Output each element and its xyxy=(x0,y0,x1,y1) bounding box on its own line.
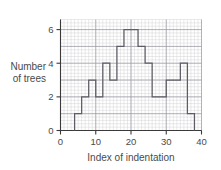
chart-canvas: 010203040 0246 Index of indentation Numb… xyxy=(0,0,221,170)
x-tick-label: 0 xyxy=(58,136,63,147)
x-axis-title: Index of indentation xyxy=(87,152,174,163)
y-tick-label: 6 xyxy=(48,24,53,35)
y-axis-tick-labels: 0246 xyxy=(48,24,53,136)
x-tick-label: 20 xyxy=(126,136,137,147)
x-tick-label: 40 xyxy=(196,136,207,147)
y-axis-title-line2: of trees xyxy=(13,73,46,84)
x-tick-label: 30 xyxy=(161,136,172,147)
y-tick-label: 2 xyxy=(48,91,53,102)
x-axis-tick-labels: 010203040 xyxy=(58,136,207,147)
y-axis-title-line1: Number xyxy=(10,61,46,72)
histogram-chart: 010203040 0246 Index of indentation Numb… xyxy=(0,0,221,170)
x-tick-label: 10 xyxy=(90,136,101,147)
y-tick-label: 4 xyxy=(48,58,53,69)
y-tick-label: 0 xyxy=(48,125,53,136)
